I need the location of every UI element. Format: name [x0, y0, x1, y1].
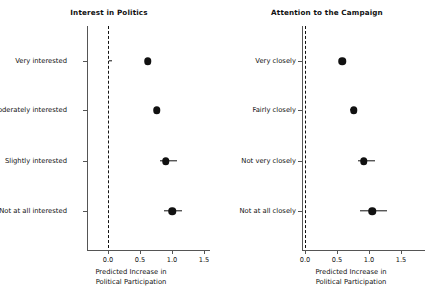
x-axis-title-line1: Predicted Increase in [218, 268, 436, 278]
x-tick-label: 0.5 [325, 256, 349, 264]
error-bar [109, 60, 112, 61]
x-tick-label: 0.5 [128, 256, 152, 264]
y-tick-mark [298, 211, 302, 212]
x-axis-title-line2: Political Participation [218, 278, 436, 288]
y-tick-mark [83, 61, 87, 62]
category-label: Slightly interested [5, 157, 67, 165]
x-tick-mark [172, 250, 173, 254]
data-point [153, 106, 161, 114]
x-tick-label: 1.0 [357, 256, 381, 264]
data-point [144, 57, 152, 65]
panel-title-left: Interest in Politics [0, 8, 218, 17]
category-label: Not at all interested [0, 207, 67, 215]
x-tick-mark [305, 250, 306, 254]
x-axis-title-line2: Political Participation [0, 278, 218, 288]
data-point [350, 106, 358, 114]
y-axis-spine-right [302, 26, 303, 250]
category-label: Very closely [255, 57, 296, 65]
y-tick-mark [83, 110, 87, 111]
y-tick-mark [298, 110, 302, 111]
category-label: Not at all closely [239, 207, 296, 215]
x-tick-label: 0.0 [293, 256, 317, 264]
x-tick-label: 1.5 [192, 256, 216, 264]
figure-dot-plot-panels: Interest in Politics Very interested Mod… [0, 0, 436, 295]
x-tick-mark [401, 250, 402, 254]
y-tick-mark [83, 161, 87, 162]
x-tick-mark [337, 250, 338, 254]
panel-interest-in-politics: Interest in Politics Very interested Mod… [0, 0, 218, 295]
panel-attention-to-the-campaign: Attention to the Campaign Very closely F… [218, 0, 436, 295]
x-tick-label: 1.0 [160, 256, 184, 264]
zero-reference-line-right [305, 26, 306, 248]
x-axis-spine-left [87, 250, 210, 251]
data-point [338, 57, 346, 65]
data-point [368, 207, 376, 215]
category-label: Very interested [15, 57, 67, 65]
x-axis-spine-right [302, 250, 425, 251]
y-tick-mark [298, 61, 302, 62]
x-tick-label: 0.0 [96, 256, 120, 264]
data-point [360, 157, 368, 165]
x-tick-mark [108, 250, 109, 254]
data-point [168, 207, 176, 215]
panel-title-right: Attention to the Campaign [218, 8, 436, 17]
x-axis-title-line1: Predicted Increase in [0, 268, 218, 278]
y-axis-spine-left [87, 26, 88, 250]
y-tick-mark [83, 211, 87, 212]
y-tick-mark [298, 161, 302, 162]
x-tick-mark [369, 250, 370, 254]
category-label: Fairly closely [252, 106, 296, 114]
x-tick-mark [140, 250, 141, 254]
data-point [162, 157, 170, 165]
x-tick-label: 1.5 [389, 256, 413, 264]
category-label: Not very closely [241, 157, 296, 165]
x-tick-mark [204, 250, 205, 254]
category-label: Moderately interested [0, 106, 67, 114]
zero-reference-line-left [108, 26, 109, 248]
